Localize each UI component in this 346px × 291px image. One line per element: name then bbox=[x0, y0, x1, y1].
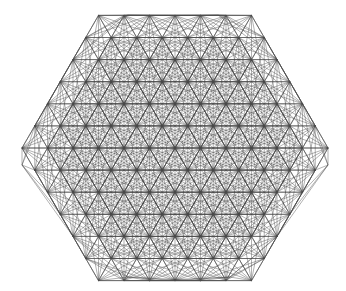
lattice-node bbox=[276, 103, 277, 104]
lattice-node bbox=[251, 280, 252, 281]
lattice-node bbox=[187, 258, 188, 259]
lattice-node bbox=[213, 125, 214, 126]
lattice-node bbox=[264, 169, 265, 170]
lattice-node bbox=[85, 37, 86, 38]
lattice-node bbox=[200, 59, 201, 60]
lattice-node bbox=[60, 81, 61, 82]
lattice-node bbox=[225, 59, 226, 60]
lattice-node bbox=[149, 280, 150, 281]
lattice-node bbox=[111, 258, 112, 259]
lattice-node bbox=[162, 37, 163, 38]
lattice-node bbox=[136, 214, 137, 215]
lattice-node bbox=[60, 125, 61, 126]
lattice-node bbox=[162, 81, 163, 82]
lattice-node bbox=[123, 147, 124, 148]
lattice-node bbox=[98, 192, 99, 193]
lattice-node bbox=[213, 258, 214, 259]
lattice-node bbox=[111, 214, 112, 215]
lattice-node bbox=[276, 236, 277, 237]
lattice-node bbox=[251, 147, 252, 148]
lattice-node bbox=[85, 125, 86, 126]
lattice-node bbox=[213, 81, 214, 82]
lattice-node bbox=[111, 37, 112, 38]
lattice-node bbox=[200, 280, 201, 281]
lattice-node bbox=[123, 280, 124, 281]
lattice-node bbox=[85, 81, 86, 82]
lattice-node bbox=[72, 103, 73, 104]
lattice-node bbox=[289, 81, 290, 82]
lattice-node bbox=[213, 37, 214, 38]
lattice-node bbox=[174, 59, 175, 60]
lattice-node bbox=[162, 258, 163, 259]
lattice-node bbox=[225, 280, 226, 281]
lattice-node bbox=[136, 169, 137, 170]
lattice-node bbox=[111, 125, 112, 126]
lattice-node bbox=[200, 147, 201, 148]
lattice-node bbox=[98, 236, 99, 237]
lattice-node bbox=[98, 147, 99, 148]
lattice-node bbox=[72, 236, 73, 237]
lattice-node bbox=[187, 81, 188, 82]
lattice-node bbox=[111, 169, 112, 170]
lattice-node bbox=[85, 258, 86, 259]
lattice-node bbox=[136, 125, 137, 126]
lattice-node bbox=[225, 147, 226, 148]
lattice-node bbox=[251, 15, 252, 16]
lattice-node bbox=[149, 15, 150, 16]
lattice-node bbox=[47, 103, 48, 104]
lattice-node bbox=[200, 236, 201, 237]
lattice-node bbox=[72, 192, 73, 193]
lattice-node bbox=[276, 147, 277, 148]
lattice-node bbox=[225, 236, 226, 237]
lattice-node bbox=[174, 192, 175, 193]
lattice-node bbox=[200, 15, 201, 16]
lattice-node bbox=[136, 37, 137, 38]
lattice-node bbox=[315, 125, 316, 126]
lattice-node bbox=[315, 169, 316, 170]
lattice-node bbox=[174, 236, 175, 237]
lattice-node bbox=[136, 81, 137, 82]
figure-root bbox=[0, 0, 346, 291]
lattice-node bbox=[264, 214, 265, 215]
lattice-node bbox=[60, 214, 61, 215]
lattice-node bbox=[47, 192, 48, 193]
lattice-node bbox=[60, 169, 61, 170]
lattice-node bbox=[162, 214, 163, 215]
lattice-node bbox=[289, 214, 290, 215]
lattice-node bbox=[123, 236, 124, 237]
lattice-node bbox=[187, 37, 188, 38]
lattice-node bbox=[149, 59, 150, 60]
lattice-node bbox=[264, 81, 265, 82]
lattice-node bbox=[162, 169, 163, 170]
lattice-node bbox=[174, 15, 175, 16]
lattice-node bbox=[123, 103, 124, 104]
lattice-node bbox=[264, 37, 265, 38]
lattice-node bbox=[149, 236, 150, 237]
lattice-node bbox=[123, 59, 124, 60]
lattice-node bbox=[187, 125, 188, 126]
lattice-node bbox=[225, 15, 226, 16]
lattice-node bbox=[162, 125, 163, 126]
lattice-node bbox=[72, 59, 73, 60]
lattice-node bbox=[111, 81, 112, 82]
lattice-node bbox=[149, 192, 150, 193]
lattice-node bbox=[98, 103, 99, 104]
lattice-node bbox=[213, 214, 214, 215]
lattice-node bbox=[98, 59, 99, 60]
lattice-node bbox=[238, 258, 239, 259]
lattice-node bbox=[276, 59, 277, 60]
lattice-node bbox=[238, 214, 239, 215]
lattice-node bbox=[251, 59, 252, 60]
lattice-node bbox=[123, 192, 124, 193]
lattice-node bbox=[34, 169, 35, 170]
lattice-node bbox=[136, 258, 137, 259]
lattice-node bbox=[98, 15, 99, 16]
lattice-node bbox=[174, 280, 175, 281]
lattice-node bbox=[225, 103, 226, 104]
lattice-node bbox=[98, 280, 99, 281]
lattice-node bbox=[238, 37, 239, 38]
lattice-node bbox=[200, 103, 201, 104]
lattice-node bbox=[264, 125, 265, 126]
lattice-node bbox=[149, 103, 150, 104]
lattice-node bbox=[213, 169, 214, 170]
